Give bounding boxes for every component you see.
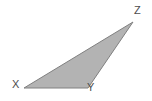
triangle-shape [24,22,133,88]
diagram-canvas: X Y Z [0,0,152,101]
vertex-label-z: Z [134,5,141,16]
vertex-label-x: X [12,79,19,90]
triangle-figure [0,0,152,101]
vertex-label-y: Y [87,82,94,93]
